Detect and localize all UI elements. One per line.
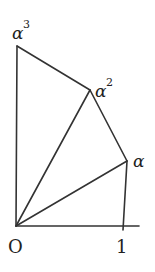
segment-O-alpha3 xyxy=(16,46,17,226)
segment-alpha-one xyxy=(123,161,127,230)
complex-plane-diagram: O 1 α α 2 α 3 xyxy=(0,0,155,272)
label-alpha2-sup: 2 xyxy=(106,76,113,89)
segment-O-alpha xyxy=(16,161,127,226)
label-alpha: α xyxy=(133,151,145,171)
label-alpha3-sup: 3 xyxy=(23,18,30,31)
segment-O-alpha2 xyxy=(16,90,90,226)
label-origin: O xyxy=(8,236,23,257)
label-one: 1 xyxy=(116,236,127,257)
segment-alpha3-alpha2 xyxy=(17,46,90,90)
